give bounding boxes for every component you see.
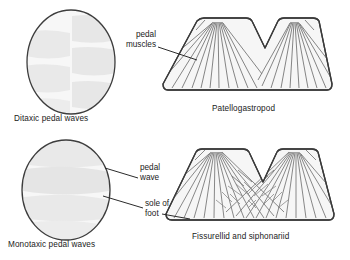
caption-fissurellid-and-siphonariid: Fissurellid and siphonariid (192, 232, 289, 241)
monotaxic-oval-illustration (18, 140, 114, 248)
annotation-pedal-muscles-line2: muscles (102, 40, 156, 50)
annotation-pedal-wave-line1: pedal (140, 163, 184, 173)
caption-ditaxic-pedal-waves: Ditaxic pedal waves (14, 114, 88, 123)
annotation-pedal-muscles: pedal muscles (102, 30, 156, 50)
ditaxic-oval-illustration (24, 10, 116, 123)
diagram-canvas (0, 0, 350, 260)
pedal-wave-diagram: Ditaxic pedal waves Monotaxic pedal wave… (0, 0, 350, 260)
caption-monotaxic-pedal-waves: Monotaxic pedal waves (8, 240, 95, 249)
annotation-pedal-wave-line2: wave (140, 173, 184, 183)
caption-patellogastropod: Patellogastropod (212, 104, 275, 113)
annotation-pedal-muscles-line1: pedal (102, 30, 156, 40)
annotation-pedal-wave: pedal wave (140, 163, 184, 183)
patellogastropod-illustration (163, 18, 332, 90)
leader-line-pedal-wave (105, 168, 138, 178)
annotation-sole-of-foot-line1: sole of (145, 199, 193, 209)
annotation-sole-of-foot: sole of foot (145, 199, 193, 219)
annotation-sole-of-foot-line2: foot (145, 209, 193, 219)
